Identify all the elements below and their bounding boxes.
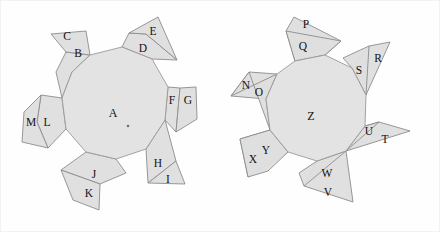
- face-label-w: W: [322, 167, 333, 179]
- right-polygon-net: ZNOPQRSTUVWXY: [231, 17, 410, 202]
- net-diagram: ABCDEFGHIJKLM ZNOPQRSTUVWXY: [0, 0, 440, 232]
- face-label-y: Y: [262, 144, 271, 156]
- face-label-c: C: [63, 30, 71, 42]
- face-label-m: M: [26, 116, 36, 128]
- face-label-a: A: [109, 106, 118, 120]
- face-label-e: E: [149, 25, 156, 37]
- face-label-k: K: [85, 187, 94, 199]
- figure-canvas: ABCDEFGHIJKLM ZNOPQRSTUVWXY: [0, 0, 440, 232]
- face-label-u: U: [365, 125, 374, 137]
- face-label-g: G: [184, 94, 192, 106]
- face-label-t: T: [381, 133, 388, 145]
- face-label-f: F: [169, 94, 175, 106]
- face-label-j: J: [92, 168, 97, 180]
- face-label-x: X: [249, 153, 258, 165]
- face-label-r: R: [374, 52, 382, 64]
- face-label-z: Z: [307, 109, 314, 123]
- face-label-s: S: [356, 64, 362, 76]
- face-label-v: V: [324, 186, 333, 198]
- face-label-p: P: [303, 18, 309, 30]
- face-label-q: Q: [299, 40, 308, 52]
- face-label-d: D: [139, 42, 147, 54]
- face-label-n: N: [242, 79, 251, 91]
- left-polygon-net: ABCDEFGHIJKLM: [22, 17, 197, 210]
- center-dot: [127, 125, 130, 128]
- face-label-o: O: [255, 86, 263, 98]
- face-label-h: H: [154, 157, 162, 169]
- face-label-l: L: [43, 116, 50, 128]
- face-label-i: I: [166, 173, 170, 185]
- face-label-b: B: [74, 47, 82, 59]
